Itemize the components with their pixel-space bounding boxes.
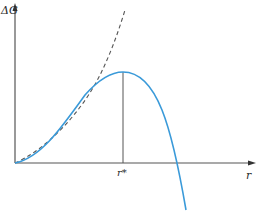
free-energy-diagram: ΔG r r* [0,0,259,218]
x-axis-label: r [246,170,251,181]
diagram-canvas [0,0,259,218]
solid-curve [15,72,186,210]
dashed-curve [15,10,125,163]
y-axis-label: ΔG [1,5,18,16]
x-axis-arrow-icon [248,161,256,166]
critical-radius-label: r* [117,168,127,178]
